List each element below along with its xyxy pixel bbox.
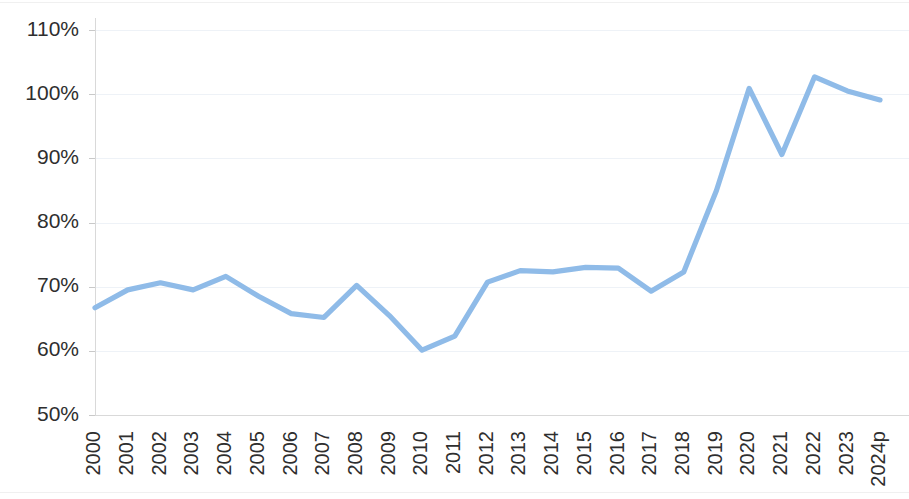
x-axis-tick-label: 2022	[802, 431, 824, 476]
x-axis-tick-label: 2002	[148, 431, 170, 476]
y-axis-tick-label: 110%	[27, 17, 79, 40]
line-chart: 110%100%90%80%70%60%50% 2000200120022003…	[0, 0, 909, 499]
x-axis-tick-labels: 2000200120022003200420052006200720082009…	[82, 431, 889, 487]
y-axis-tick-label: 90%	[37, 145, 79, 168]
x-axis-tick-label: 2014	[540, 431, 562, 476]
x-axis-tick-label: 2000	[82, 431, 104, 476]
y-axis-tick-label: 50%	[37, 402, 79, 425]
x-axis-tick-label: 2024p	[867, 431, 889, 487]
x-axis-tick-label: 2005	[246, 431, 268, 476]
x-axis-tick-label: 2010	[409, 431, 431, 476]
x-axis-tick-label: 2006	[279, 431, 301, 476]
y-axis-tick-label: 80%	[37, 209, 79, 232]
x-axis-tick-label: 2020	[736, 431, 758, 476]
x-axis-tick-label: 2004	[213, 431, 235, 476]
y-axis-tick-label: 60%	[37, 337, 79, 360]
x-axis-tick-label: 2017	[638, 431, 660, 476]
y-axis-tick-labels: 110%100%90%80%70%60%50%	[25, 17, 79, 425]
x-axis-tick-label: 2021	[769, 431, 791, 476]
x-axis-tick-label: 2008	[344, 431, 366, 476]
y-axis-tick-label: 70%	[37, 273, 79, 296]
x-axis-tick-label: 2007	[311, 431, 333, 476]
axes	[89, 18, 909, 416]
x-axis-tick-label: 2018	[671, 431, 693, 476]
series-line	[95, 77, 880, 350]
x-axis-tick-label: 2009	[377, 431, 399, 476]
x-axis-tick-label: 2003	[180, 431, 202, 476]
x-axis-tick-label: 2019	[704, 431, 726, 476]
x-axis-tick-label: 2013	[507, 431, 529, 476]
chart-canvas: 110%100%90%80%70%60%50% 2000200120022003…	[0, 0, 909, 499]
data-series	[95, 77, 880, 350]
x-axis-tick-label: 2023	[835, 431, 857, 476]
x-axis-tick-label: 2001	[115, 431, 137, 476]
gridlines	[0, 2, 909, 492]
x-axis-tick-label: 2015	[573, 431, 595, 476]
x-axis-tick-label: 2011	[442, 431, 464, 474]
x-axis-tick-label: 2012	[475, 431, 497, 476]
y-axis-tick-label: 100%	[25, 81, 79, 104]
x-axis-tick-label: 2016	[606, 431, 628, 476]
